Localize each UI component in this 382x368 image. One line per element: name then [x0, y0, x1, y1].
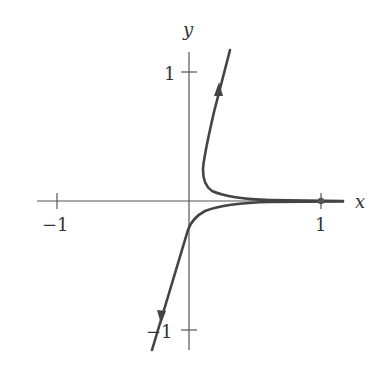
x-tick-label-neg1: −1 — [42, 214, 69, 235]
y-tick-label-1: 1 — [164, 63, 175, 84]
upper-trajectory-curve — [203, 50, 343, 201]
plot-canvas: y x −1 1 1 −1 — [0, 0, 382, 368]
y-axis-label: y — [182, 19, 194, 40]
equilibrium-point-marker — [318, 198, 324, 204]
phase-portrait: y x −1 1 1 −1 — [0, 0, 382, 368]
x-tick-label-1: 1 — [315, 214, 326, 235]
x-axis-label: x — [355, 191, 365, 212]
y-tick-label-neg1: −1 — [146, 321, 173, 342]
